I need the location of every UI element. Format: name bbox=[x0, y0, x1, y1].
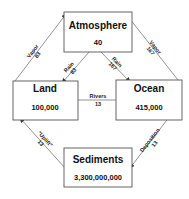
sediments-title: Sediments bbox=[73, 154, 124, 165]
atmosphere-title: Atmosphere bbox=[69, 20, 128, 31]
ocean-amount: 415,000 bbox=[135, 103, 162, 112]
land-amount: 100,000 bbox=[31, 103, 58, 112]
svg-text:13: 13 bbox=[95, 101, 101, 107]
atmosphere-amount: 40 bbox=[94, 38, 102, 47]
uplift-13-label: "Uplift" 13 bbox=[32, 130, 54, 153]
sediments-amount: 3,300,000,000 bbox=[74, 173, 122, 182]
water-cycle-diagram: Atmosphere 40 Land 100,000 Ocean 415,000… bbox=[0, 0, 189, 199]
svg-text:Deposition: Deposition bbox=[139, 127, 162, 154]
land-title: Land bbox=[33, 83, 57, 94]
rain-167-label: Rain 167 bbox=[107, 56, 124, 73]
sediments-box: Sediments 3,300,000,000 bbox=[64, 148, 132, 187]
vapor-167-label: Vapor 167 bbox=[144, 39, 163, 59]
svg-text:Rivers: Rivers bbox=[90, 93, 107, 99]
ocean-box: Ocean 415,000 bbox=[116, 80, 182, 120]
vapor-land-to-atmosphere-arrow bbox=[15, 14, 66, 81]
rain-83-label: Rain 83 bbox=[63, 60, 80, 77]
deposition-13-label: Deposition 13 bbox=[139, 127, 166, 157]
land-box: Land 100,000 bbox=[13, 81, 78, 120]
ocean-title: Ocean bbox=[134, 83, 165, 94]
atmosphere-box: Atmosphere 40 bbox=[64, 12, 132, 52]
